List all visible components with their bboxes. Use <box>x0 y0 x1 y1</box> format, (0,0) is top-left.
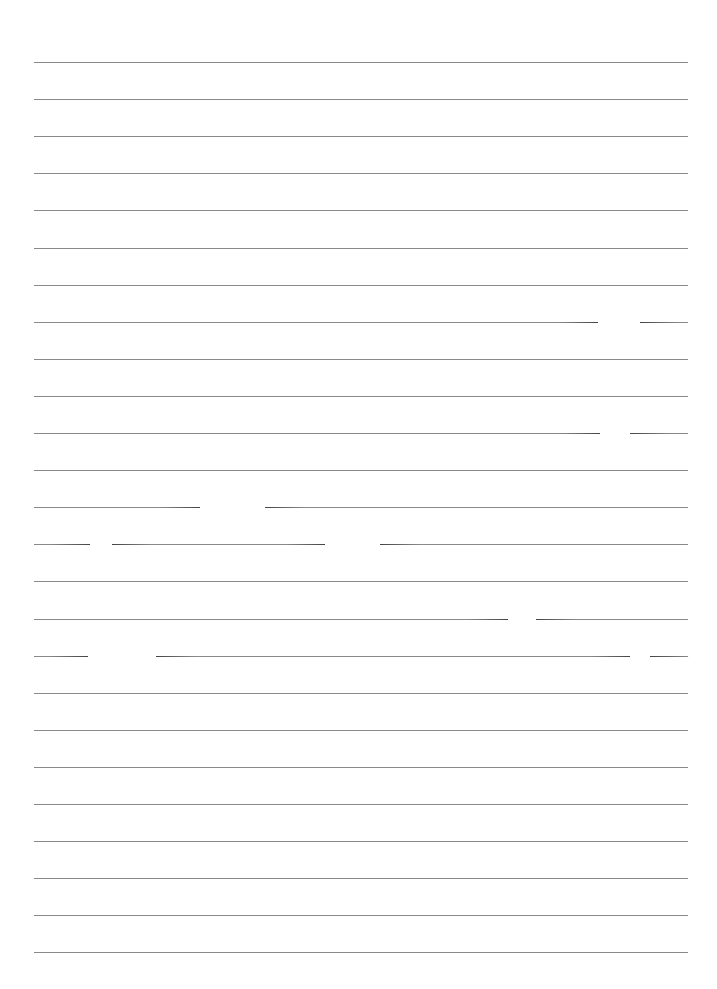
ruled-line <box>34 285 688 286</box>
ruled-line <box>34 878 688 879</box>
ruled-line <box>34 396 688 397</box>
ruled-line <box>34 136 688 137</box>
line-gap <box>88 655 156 658</box>
ruled-line <box>34 99 688 100</box>
ruled-line <box>34 248 688 249</box>
ruled-line <box>34 173 688 174</box>
line-gap <box>630 655 650 658</box>
line-gap <box>90 543 112 546</box>
line-gap <box>598 321 640 324</box>
ruled-line <box>34 210 688 211</box>
ruled-line <box>34 581 688 582</box>
line-gap <box>600 432 630 435</box>
line-gap <box>325 543 380 546</box>
ruled-line <box>34 952 688 953</box>
ruled-line <box>34 470 688 471</box>
ruled-line <box>34 359 688 360</box>
ruled-line <box>34 619 688 620</box>
lined-paper-page <box>0 0 717 989</box>
ruled-line <box>34 841 688 842</box>
ruled-line <box>34 915 688 916</box>
ruled-line <box>34 507 688 508</box>
ruled-line <box>34 804 688 805</box>
ruled-line <box>34 693 688 694</box>
line-gap <box>200 506 265 509</box>
line-gap <box>508 618 536 621</box>
ruled-line <box>34 62 688 63</box>
ruled-line <box>34 767 688 768</box>
ruled-line <box>34 730 688 731</box>
